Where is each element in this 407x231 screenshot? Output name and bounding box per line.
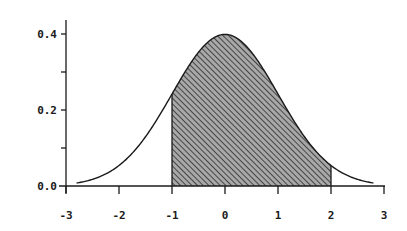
x-tick-label: 0 bbox=[222, 209, 229, 222]
x-tick-label: 3 bbox=[381, 209, 388, 222]
x-tick-label: 2 bbox=[328, 209, 335, 222]
x-tick-label: -1 bbox=[165, 209, 179, 222]
y-tick-label: 0.0 bbox=[37, 180, 57, 193]
x-tick-label: 1 bbox=[275, 209, 282, 222]
y-tick-label: 0.2 bbox=[37, 104, 57, 117]
x-tick-label: -3 bbox=[59, 209, 72, 222]
shaded-area-region bbox=[172, 34, 331, 186]
x-axis-ticks: -3-2-10123 bbox=[59, 186, 387, 222]
normal-distribution-chart: -3-2-10123 0.00.20.4 bbox=[0, 0, 407, 231]
x-tick-label: -2 bbox=[112, 209, 125, 222]
y-tick-label: 0.4 bbox=[37, 28, 57, 41]
y-axis-ticks: 0.00.20.4 bbox=[37, 28, 66, 193]
